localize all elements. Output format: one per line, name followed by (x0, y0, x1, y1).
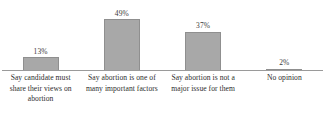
category-label-2: Say abortion is not a major issue for th… (163, 73, 244, 94)
x-axis-baseline (2, 70, 323, 71)
bar-value-label-1: 49% (115, 9, 129, 18)
bar-rect-2[interactable] (185, 32, 221, 71)
bar-group-0: 13% (0, 0, 81, 71)
bar-rect-0[interactable] (23, 57, 59, 71)
category-label-1: Say abortion is one of many important fa… (81, 73, 162, 94)
bar-stack-3: 2% (244, 0, 325, 71)
bar-rect-1[interactable] (104, 19, 140, 71)
bar-group-1: 49% (81, 0, 162, 71)
category-label-3: No opinion (244, 73, 325, 84)
plot-area: 13% 49% 37% 2% (0, 0, 325, 71)
bar-group-3: 2% (244, 0, 325, 71)
bar-group-2: 37% (163, 0, 244, 71)
bar-stack-0: 13% (0, 0, 81, 71)
bar-stack-2: 37% (163, 0, 244, 71)
category-label-0: Say candidate must share their views on … (0, 73, 81, 105)
bar-value-label-0: 13% (34, 47, 48, 56)
category-labels-row: Say candidate must share their views on … (0, 73, 325, 118)
bar-value-label-3: 2% (279, 58, 289, 67)
bar-chart: 13% 49% 37% 2% Say candidate must sh (0, 0, 325, 118)
bar-stack-1: 49% (81, 0, 162, 71)
bar-value-label-2: 37% (196, 21, 210, 30)
